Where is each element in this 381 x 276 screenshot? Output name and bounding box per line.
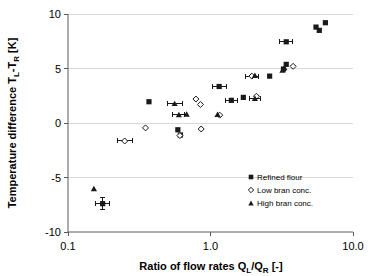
legend-label: Low bran conc.: [257, 186, 311, 195]
data-point-square: [100, 201, 105, 206]
data-point-square: [284, 39, 289, 44]
y-tick-label: -5: [51, 172, 61, 184]
y-tick-label: 0: [55, 117, 61, 129]
data-point-square: [229, 98, 234, 103]
data-point-square: [217, 84, 222, 89]
data-point-square: [249, 175, 254, 180]
legend-label: Refined flour: [257, 173, 303, 182]
data-point-square: [323, 20, 328, 25]
data-point-square: [317, 28, 322, 33]
legend-label: High bran conc.: [257, 199, 313, 208]
y-tick-label: 5: [55, 63, 61, 75]
chart-figure: -10-50510 0.11.010.0 Refined flourLow br…: [0, 0, 381, 276]
data-point-square: [146, 99, 151, 104]
data-point-square: [175, 127, 180, 132]
data-point-square: [241, 95, 246, 100]
x-tick-label: 0.1: [60, 240, 75, 252]
x-tick-label: 10.0: [342, 240, 363, 252]
y-tick-label: 10: [49, 8, 61, 20]
y-tick-label: -10: [45, 226, 61, 238]
x-tick-label: 1.0: [203, 240, 218, 252]
scatter-plot: -10-50510 0.11.010.0 Refined flourLow br…: [0, 0, 381, 276]
data-point-square: [267, 74, 272, 79]
